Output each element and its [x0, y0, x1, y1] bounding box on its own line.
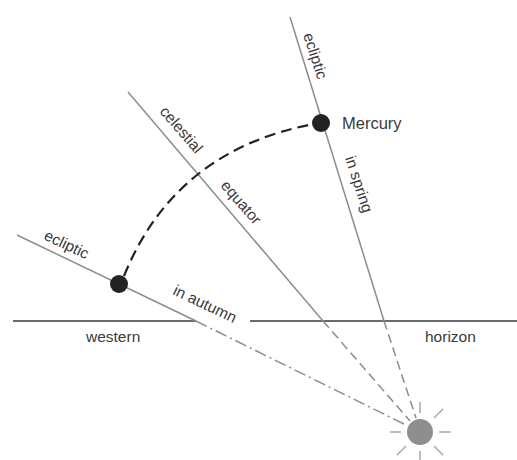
label-celestial: celestial [157, 103, 207, 156]
ecliptic-autumn-line [17, 235, 406, 425]
sun-icon [390, 402, 451, 460]
label-ecliptic-autumn: ecliptic [42, 226, 92, 262]
label-western: western [85, 328, 140, 345]
mercury-autumn-dot [110, 275, 128, 293]
label-in-autumn: in autumn [171, 281, 240, 326]
ecliptic-spring-line [290, 17, 416, 418]
label-equator: equator [218, 177, 265, 228]
label-in-spring: in spring [342, 154, 376, 215]
label-ecliptic-spring: ecliptic [300, 31, 331, 82]
celestial-equator-line [128, 92, 410, 421]
label-horizon: horizon [425, 328, 476, 345]
mercury-spring-dot [312, 114, 330, 132]
label-mercury: Mercury [342, 114, 402, 132]
mercury-ecliptic-diagram: ecliptic in spring Mercury celestial equ… [0, 0, 517, 460]
